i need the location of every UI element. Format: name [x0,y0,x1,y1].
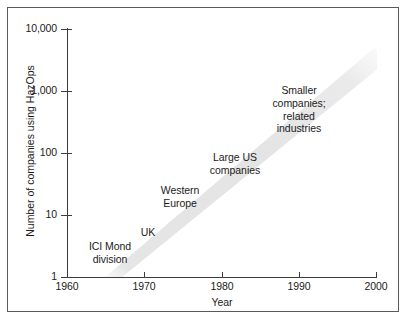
x-tick-label-2000: 2000 [352,281,400,293]
x-tick-1960 [67,272,68,278]
y-tick-10000 [61,29,72,30]
x-tick-label-1980: 1980 [198,281,246,293]
y-tick-label-1: 1 [5,271,57,282]
x-tick-label-1990: 1990 [275,281,323,293]
x-tick-1980 [222,272,223,278]
x-tick-1990 [299,272,300,278]
y-tick-100 [61,153,72,154]
x-tick-1970 [144,272,145,278]
x-tick-2000 [376,272,377,278]
y-axis-title: Number of companies using HazOps [24,36,36,266]
y-tick-1000 [61,91,72,92]
y-tick-label-10000: 10,000 [5,23,57,34]
annotation-uk: UK [135,226,161,239]
x-axis-title: Year [67,296,377,308]
chart-figure: 10,000 1,000 100 10 1 1960 1970 1980 199… [0,0,409,321]
x-tick-label-1960: 1960 [43,281,91,293]
annotation-large-us-companies: Large US companies [198,151,272,177]
annotation-western-europe: Western Europe [146,184,214,210]
x-tick-label-1970: 1970 [120,281,168,293]
annotation-ici-mond-division: ICI Mond division [75,240,145,266]
annotation-smaller-companies: Smaller companies; related industries [262,84,336,135]
y-tick-10 [61,215,72,216]
